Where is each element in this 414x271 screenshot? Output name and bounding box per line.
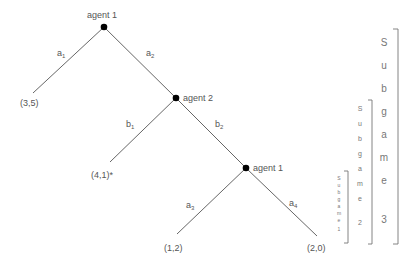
subgame-3-label: S u b g a m e 3 — [377, 38, 391, 227]
edge-label-b1: b1 — [126, 120, 134, 130]
node-label-root: agent 1 — [87, 11, 117, 20]
subgame-2-bracket — [368, 100, 372, 244]
decision-node-root — [101, 24, 108, 31]
edge-a4 — [246, 168, 317, 236]
leaf-payoff-3-5: (3,5) — [20, 99, 39, 108]
tree-lines — [0, 0, 414, 271]
node-label-agent2: agent 2 — [183, 94, 213, 103]
subgame-2-label: S u b g a m e 2 — [355, 105, 365, 229]
game-tree-diagram: agent 1 agent 2 agent 1 a1 a2 b1 b2 a3 a… — [0, 0, 414, 271]
edge-label-a3: a3 — [186, 201, 194, 211]
decision-node-agent1-second — [243, 165, 250, 172]
leaf-payoff-1-2: (1,2) — [164, 244, 183, 253]
edge-label-b2: b2 — [215, 120, 223, 130]
subgame-1-label: S u b g a m e 1 — [335, 176, 343, 234]
leaf-payoff-4-1-equilibrium: (4,1)* — [91, 171, 113, 180]
edge-a1 — [33, 27, 104, 93]
leaf-payoff-2-0: (2,0) — [307, 244, 326, 253]
edge-b1 — [110, 98, 176, 162]
node-label-agent1-second: agent 1 — [253, 164, 283, 173]
subgame-3-bracket — [393, 29, 398, 244]
edge-a2 — [104, 27, 176, 98]
subgame-1-bracket — [344, 171, 348, 243]
edge-b2 — [176, 98, 246, 168]
decision-node-agent2 — [173, 95, 180, 102]
edge-label-a2: a2 — [146, 49, 154, 59]
edge-label-a4: a4 — [289, 199, 297, 209]
edge-label-a1: a1 — [57, 49, 65, 59]
